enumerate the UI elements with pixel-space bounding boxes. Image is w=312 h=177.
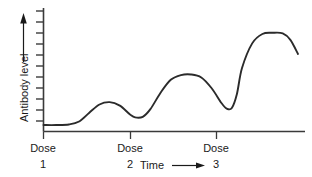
y-axis-ticks: [36, 11, 43, 121]
antibody-response-curve: [44, 33, 299, 125]
dose-1-number: 1: [40, 158, 46, 170]
x-axis-ticks: [44, 132, 217, 140]
x-axis-title: Time: [140, 159, 164, 171]
dose-1-label: Dose: [30, 142, 56, 154]
antibody-response-figure: Antibody level Dose 1 Dose 2 Dose 3 Time: [0, 0, 312, 177]
up-arrow-head-icon: [20, 13, 27, 24]
dose-3-label: Dose: [203, 142, 229, 154]
plot-area: Antibody level Dose 1 Dose 2 Dose 3 Time: [0, 0, 312, 177]
y-axis-title: Antibody level: [18, 54, 30, 123]
dose-2-label: Dose: [117, 142, 143, 154]
dose-2-number: 2: [127, 158, 133, 170]
x-axis-arrow: [172, 162, 205, 168]
right-arrow-head-icon: [196, 162, 205, 168]
dose-3-number: 3: [213, 158, 219, 170]
